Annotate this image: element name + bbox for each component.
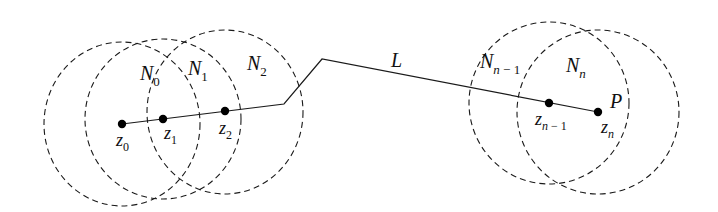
point-z0 <box>118 120 126 128</box>
path-label-l: L <box>390 49 402 71</box>
neighborhood-label-n1: N1 <box>187 57 208 84</box>
point-label-z0: z0 <box>115 130 129 154</box>
path-points <box>118 99 602 128</box>
point-z2 <box>221 107 229 115</box>
point-zn1 <box>545 99 553 107</box>
point-zn <box>594 108 602 116</box>
neighborhood-label-nn1: Nn − 1 <box>479 50 520 77</box>
neighborhood-label-nn: Nn <box>565 54 586 81</box>
endpoint-label-p: P <box>609 90 622 112</box>
neighborhood-chain-diagram: L P N0N1N2Nn − 1Nnz0z1z2zn − 1zn <box>0 0 718 212</box>
point-label-zn1: zn − 1 <box>534 109 567 133</box>
neighborhood-label-n2: N2 <box>246 52 267 79</box>
point-z1 <box>159 115 167 123</box>
neighborhood-circles <box>44 22 679 206</box>
point-label-zn: zn <box>600 117 614 141</box>
point-label-z2: z2 <box>218 118 232 142</box>
neighborhood-label-n0: N0 <box>139 62 160 89</box>
point-label-z1: z1 <box>163 123 177 147</box>
